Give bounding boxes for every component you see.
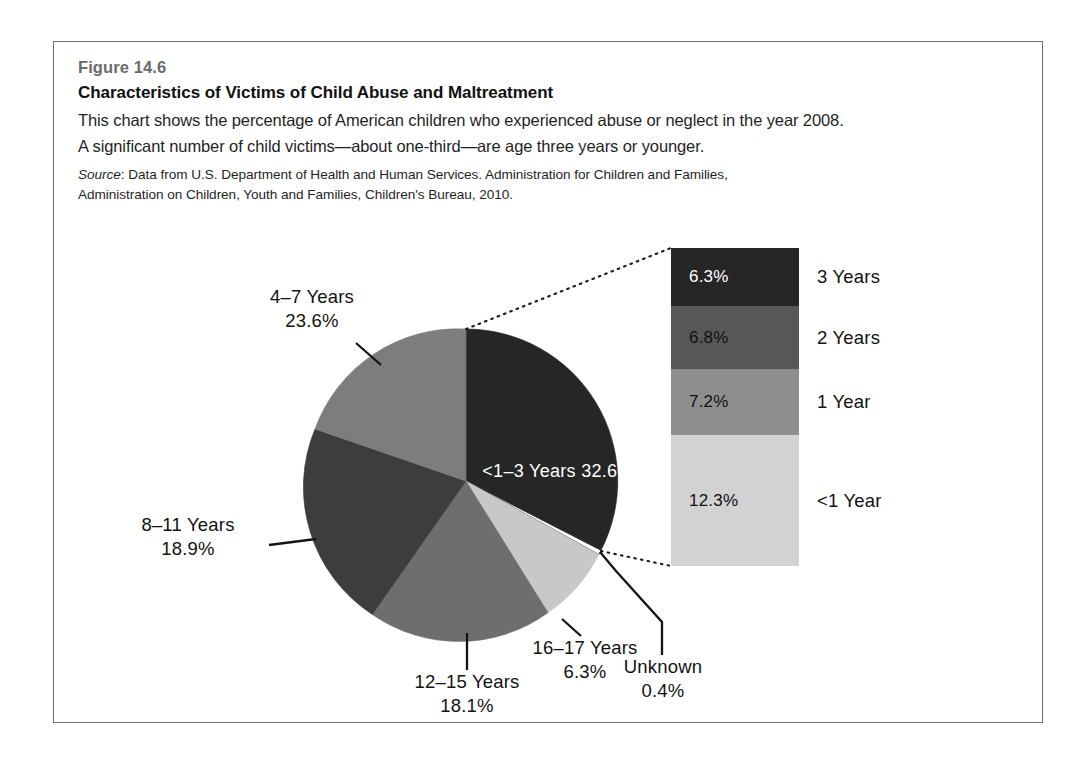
bar-segment-3-years-label: 3 Years <box>817 266 880 288</box>
pie-label-8-to-11-years-value: 18.9% <box>109 537 267 561</box>
pie-label-4-to-7-years-name: 4–7 Years <box>237 285 387 309</box>
bar-segment-under-1-year-label: <1 Year <box>817 490 882 512</box>
pie-label-8-to-11-years-name: 8–11 Years <box>109 513 267 537</box>
pie-label-under-1-to-3-years-name: <1–3 Years <box>482 461 576 481</box>
exploded-stacked-bar: 6.3% 3 Years 6.8% 2 Years 7.2% 1 Year 12… <box>671 248 799 566</box>
leader-line-8-to-11-years <box>269 539 316 545</box>
leader-line-4-to-7-years <box>356 343 381 365</box>
pie-label-unknown: Unknown 0.4% <box>600 655 726 703</box>
pie-label-12-to-15-years-value: 18.1% <box>387 694 547 718</box>
pie-label-under-1-to-3-years: <1–3 Years 32.6% <box>478 460 638 483</box>
chart-area: <1–3 Years 32.6% 4–7 Years 23.6% 8–11 Ye… <box>54 42 1044 724</box>
bar-segment-2-years[interactable]: 6.8% 2 Years <box>671 306 799 369</box>
pie-label-4-to-7-years-value: 23.6% <box>237 309 387 333</box>
bar-segment-3-years-value: 6.3% <box>671 267 729 287</box>
bar-segment-1-year-label: 1 Year <box>817 391 871 413</box>
bar-segment-1-year[interactable]: 7.2% 1 Year <box>671 369 799 435</box>
bar-segment-2-years-label: 2 Years <box>817 327 880 349</box>
bar-segment-2-years-value: 6.8% <box>671 328 729 348</box>
callout-leader-lines <box>54 42 1044 724</box>
bar-segment-under-1-year-value: 12.3% <box>671 491 738 511</box>
pie-label-4-to-7-years: 4–7 Years 23.6% <box>237 285 387 333</box>
pie-label-under-1-to-3-years-value: 32.6% <box>581 461 634 481</box>
figure-frame: Figure 14.6 Characteristics of Victims o… <box>53 41 1043 723</box>
figure-root: Figure 14.6 Characteristics of Victims o… <box>0 0 1088 758</box>
pie-label-unknown-name: Unknown <box>600 655 726 679</box>
dotted-guide-upper <box>466 248 671 329</box>
bar-segment-under-1-year[interactable]: 12.3% <1 Year <box>671 435 799 566</box>
pie-label-unknown-value: 0.4% <box>600 679 726 703</box>
leader-line-16-to-17-years <box>562 619 581 636</box>
bar-segment-3-years[interactable]: 6.3% 3 Years <box>671 248 799 306</box>
dotted-guide-lower <box>601 551 671 566</box>
bar-segment-1-year-value: 7.2% <box>671 392 729 412</box>
pie-label-8-to-11-years: 8–11 Years 18.9% <box>109 513 267 561</box>
